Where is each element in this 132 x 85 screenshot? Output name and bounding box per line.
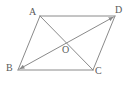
diagonal-BD-line (20, 17, 114, 69)
parallelogram-diagram (0, 0, 132, 85)
vertex-label-b: B (6, 63, 13, 73)
side-DC-line (93, 16, 115, 70)
side-BA-line (18, 16, 40, 70)
vertex-label-a: A (29, 7, 36, 17)
vertex-label-d: D (115, 5, 122, 15)
intersection-label-o: O (62, 45, 69, 55)
vertex-label-c: C (95, 66, 102, 76)
geometry-figure: A D B C O (0, 0, 132, 85)
